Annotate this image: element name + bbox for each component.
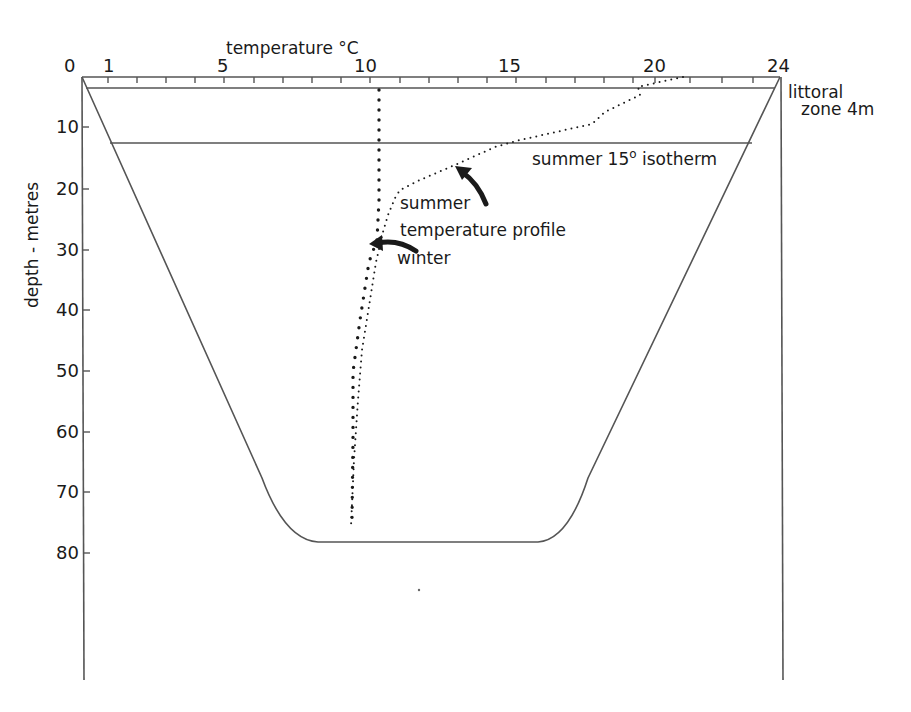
- x-tick-15: 15: [498, 57, 521, 75]
- y-tick-60: 60: [56, 423, 79, 441]
- stray-dot: [418, 589, 420, 591]
- winter-label: winter: [397, 250, 451, 267]
- depth-axis-line: [82, 77, 84, 680]
- x-tick-20: 20: [643, 57, 666, 75]
- x-tick-1: 1: [103, 57, 114, 75]
- right-frame-line: [781, 77, 783, 680]
- y-tick-80: 80: [56, 544, 79, 562]
- summer-profile-line: [351, 77, 683, 526]
- y-tick-20: 20: [56, 180, 79, 198]
- littoral-label-line2: zone 4m: [801, 101, 874, 118]
- y-tick-30: 30: [56, 241, 79, 259]
- temperature-axis-title: temperature °C: [226, 40, 359, 57]
- temperature-profile-label: temperature profile: [400, 222, 566, 239]
- winter-profile-line: [352, 90, 379, 520]
- y-tick-50: 50: [56, 362, 79, 380]
- x-tick-5: 5: [217, 57, 228, 75]
- lake-basin-outline: [82, 77, 780, 542]
- x-tick-0: 0: [64, 57, 75, 75]
- x-tick-10: 10: [354, 57, 377, 75]
- y-tick-70: 70: [56, 483, 79, 501]
- x-tick-24: 24: [767, 57, 790, 75]
- depth-axis-title: depth - metres: [22, 182, 42, 308]
- temperature-ticks: [108, 77, 753, 83]
- lake-profile-diagram: [0, 0, 911, 712]
- y-tick-10: 10: [56, 118, 79, 136]
- summer-label: summer: [400, 195, 470, 212]
- degree-symbol: o: [629, 147, 636, 161]
- isotherm-label: summer 15o isotherm: [532, 148, 717, 168]
- y-tick-40: 40: [56, 301, 79, 319]
